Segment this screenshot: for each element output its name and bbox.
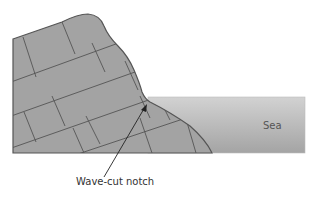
sea-label: Sea (263, 120, 282, 131)
cliff-diagram (0, 0, 314, 198)
cliff-rock (13, 14, 212, 153)
wave-cut-notch-label: Wave-cut notch (76, 176, 154, 187)
